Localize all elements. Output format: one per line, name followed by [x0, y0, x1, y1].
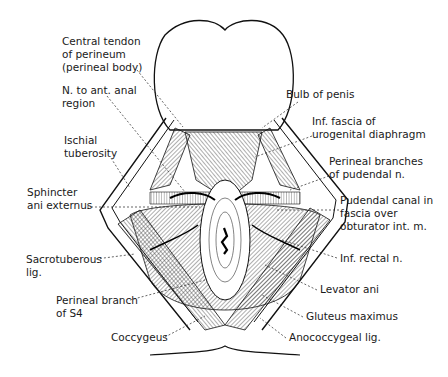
label-sphincter-ani-externus: Sphincter ani externus — [27, 186, 92, 212]
label-inf-fascia-urogenital: Inf. fascia of urogenital diaphragm — [312, 115, 426, 141]
scrotum-outline — [154, 20, 293, 130]
label-ischial-tuberosity: Ischial tuberosity — [64, 134, 117, 160]
label-levator-ani: Levator ani — [320, 283, 379, 296]
label-central-tendon: Central tendon of perineum (perineal bod… — [62, 35, 142, 74]
label-pudendal-canal: Pudendal canal in fascia over obturator … — [340, 194, 433, 233]
label-anococcygeal-lig: Anococcygeal lig. — [289, 331, 381, 344]
gluteal-cleft — [150, 346, 300, 355]
label-perineal-branch-s4: Perineal branch of S4 — [56, 294, 138, 320]
label-sacrotuberous-lig: Sacrotuberous lig. — [26, 253, 102, 279]
ischiocavernosus-right — [258, 128, 300, 190]
label-gluteus-maximus: Gluteus maximus — [306, 310, 398, 323]
label-bulb-of-penis: Bulb of penis — [286, 88, 354, 101]
ischiocavernosus-left — [150, 128, 190, 190]
label-coccygeus: Coccygeus — [111, 331, 168, 344]
label-perineal-branches-pudendal: Perineal branches of pudendal n. — [329, 155, 423, 181]
label-n-ant-anal-region: N. to ant. anal region — [62, 84, 137, 110]
label-inf-rectal-n: Inf. rectal n. — [340, 252, 402, 265]
